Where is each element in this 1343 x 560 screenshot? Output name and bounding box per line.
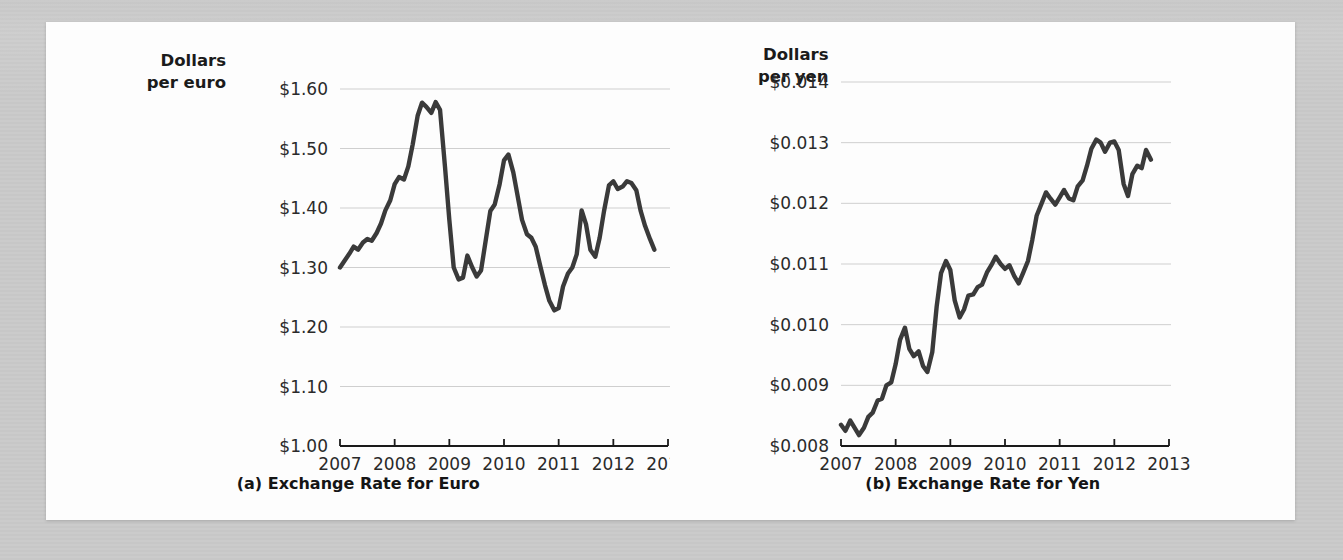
svg-text:2011: 2011 [1038,454,1081,474]
svg-text:2008: 2008 [373,454,416,474]
svg-text:$1.00: $1.00 [279,436,328,456]
svg-text:$1.30: $1.30 [279,258,328,278]
svg-text:2009: 2009 [428,454,471,474]
svg-text:2009: 2009 [928,454,971,474]
yen-chart-svg: $0.008$0.009$0.010$0.011$0.012$0.013$0.0… [671,22,1296,520]
chart-panel-euro: Dollars per euro $1.00$1.10$1.20$1.30$1.… [46,22,671,520]
caption-euro: (a) Exchange Rate for Euro [46,474,671,493]
chart-panel-yen: Dollars per yen $0.008$0.009$0.010$0.011… [671,22,1296,520]
svg-text:$0.013: $0.013 [769,133,828,153]
figure-row: Dollars per euro $1.00$1.10$1.20$1.30$1.… [46,22,1295,520]
svg-text:2007: 2007 [819,454,862,474]
svg-text:$1.50: $1.50 [279,139,328,159]
svg-text:$0.010: $0.010 [769,315,828,335]
svg-text:$1.60: $1.60 [279,79,328,99]
svg-text:2013: 2013 [1147,454,1190,474]
svg-text:$0.011: $0.011 [769,254,828,274]
svg-text:$1.20: $1.20 [279,317,328,337]
caption-yen: (b) Exchange Rate for Yen [671,474,1296,493]
svg-text:$0.008: $0.008 [769,436,828,456]
svg-text:$0.012: $0.012 [769,193,828,213]
svg-text:$1.40: $1.40 [279,198,328,218]
svg-text:$1.10: $1.10 [279,377,328,397]
svg-text:2013: 2013 [646,454,670,474]
figure-card: Dollars per euro $1.00$1.10$1.20$1.30$1.… [46,22,1295,520]
svg-text:2011: 2011 [537,454,580,474]
svg-text:2008: 2008 [874,454,917,474]
svg-text:2010: 2010 [482,454,525,474]
svg-text:$0.014: $0.014 [769,72,828,92]
svg-text:2010: 2010 [983,454,1026,474]
svg-text:2012: 2012 [592,454,635,474]
svg-text:2012: 2012 [1092,454,1135,474]
svg-text:2007: 2007 [318,454,361,474]
svg-text:$0.009: $0.009 [769,375,828,395]
euro-chart-svg: $1.00$1.10$1.20$1.30$1.40$1.50$1.6020072… [46,22,670,520]
